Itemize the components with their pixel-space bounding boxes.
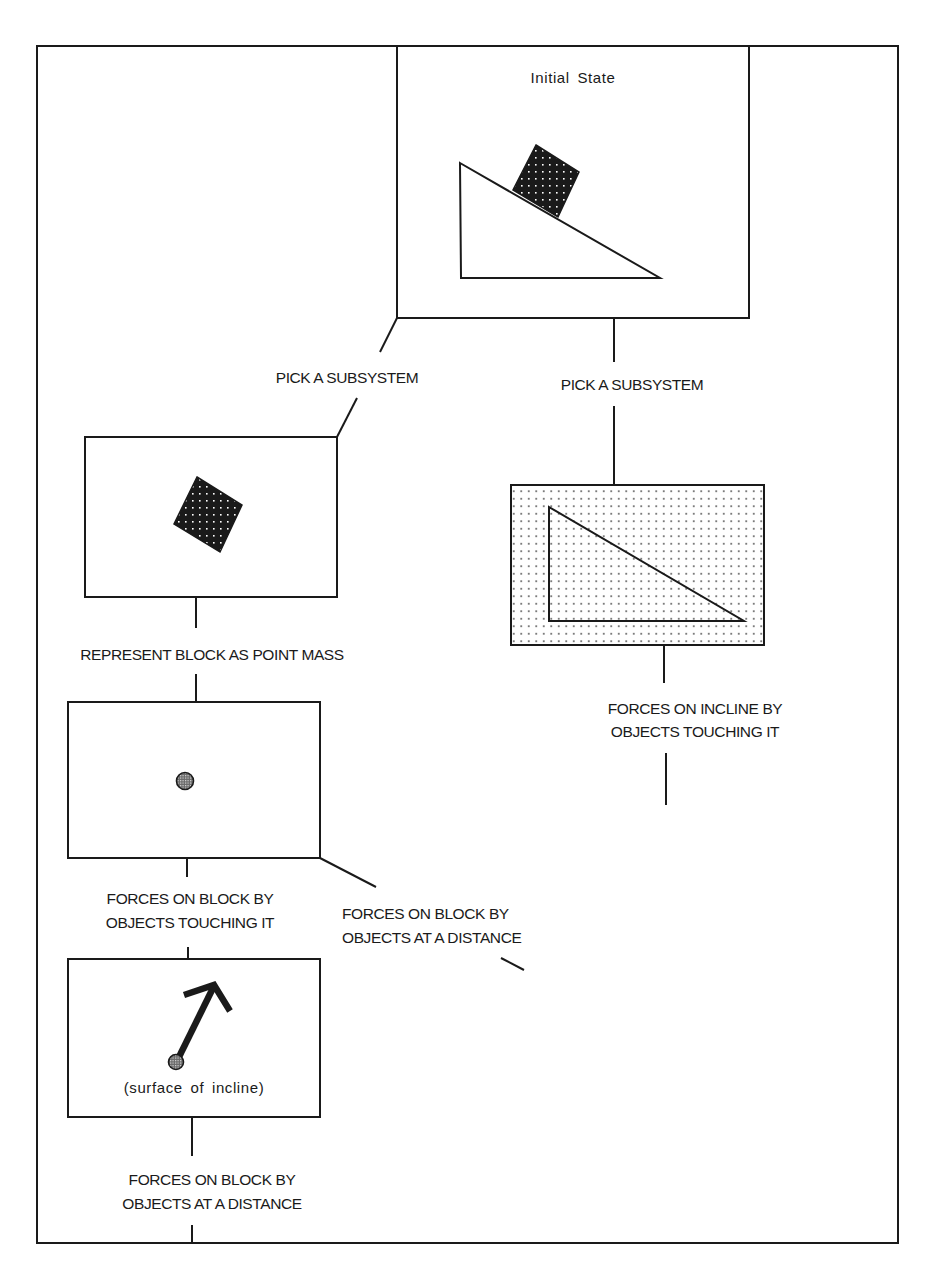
node-contact-force: (surface of incline) [68,959,320,1117]
point-mass-icon [169,1055,184,1070]
contact-force-caption: (surface of incline) [124,1079,265,1096]
edge-label-block-distance-bottom-1: FORCES ON BLOCK BY [129,1171,296,1188]
edge-label-block-distance-branch-1: FORCES ON BLOCK BY [342,905,509,922]
edge-label-point-mass: REPRESENT BLOCK AS POINT MASS [80,646,344,663]
edge-block-contact: FORCES ON BLOCK BY OBJECTS TOUCHING IT [106,858,275,959]
edge-point-mass: REPRESENT BLOCK AS POINT MASS [80,597,344,701]
edge-label-block-distance-bottom-2: OBJECTS AT A DISTANCE [122,1195,301,1212]
edge-label-block-contact-1: FORCES ON BLOCK BY [107,890,274,907]
point-mass-icon [177,773,194,790]
edge-label-incline-contact-1: FORCES ON INCLINE BY [608,700,783,717]
node-block-subsystem [85,437,337,597]
edge-label-pick-left: PICK A SUBSYSTEM [276,369,419,386]
edge-pick-left: PICK A SUBSYSTEM [276,318,419,437]
flow-diagram: Initial State PICK A SUBSYSTEM PICK A SU… [0,0,926,1272]
node-point-mass [68,702,320,858]
edge-label-incline-contact-2: OBJECTS TOUCHING IT [611,723,780,740]
initial-state-title: Initial State [530,69,615,86]
edge-label-pick-right: PICK A SUBSYSTEM [561,376,704,393]
edge-label-block-contact-2: OBJECTS TOUCHING IT [106,914,275,931]
edge-label-block-distance-branch-2: OBJECTS AT A DISTANCE [342,929,521,946]
node-initial-state: Initial State [397,46,749,318]
edge-pick-right: PICK A SUBSYSTEM [561,318,704,485]
edge-block-distance-branch: FORCES ON BLOCK BY OBJECTS AT A DISTANCE [320,858,524,970]
edge-incline-contact: FORCES ON INCLINE BY OBJECTS TOUCHING IT [608,645,783,805]
edge-block-distance-bottom: FORCES ON BLOCK BY OBJECTS AT A DISTANCE [122,1117,301,1243]
node-incline-subsystem [511,485,764,645]
